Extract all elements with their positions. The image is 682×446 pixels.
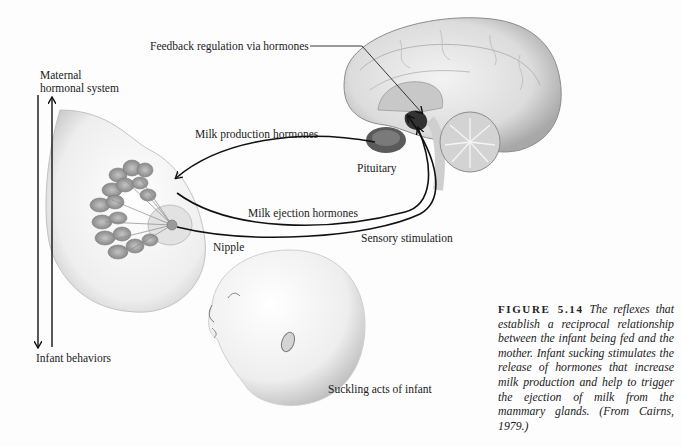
caption-text: The reflexes that establish a reciprocal… bbox=[498, 302, 674, 433]
suckling-label: Suckling acts of infant bbox=[328, 383, 432, 396]
milk-production-label: Milk production hormones bbox=[195, 128, 318, 141]
nipple-label: Nipple bbox=[213, 241, 244, 254]
infant-behaviors-label: Infant behaviors bbox=[36, 352, 111, 365]
sensory-stimulation-label: Sensory stimulation bbox=[361, 232, 453, 245]
milk-production-arrow bbox=[176, 136, 375, 178]
breast-illustration bbox=[46, 110, 206, 312]
maternal-label-line2: hormonal system bbox=[40, 82, 119, 95]
pituitary-label: Pituitary bbox=[357, 162, 397, 175]
figure-number: FIGURE 5.14 bbox=[498, 303, 584, 315]
figure-caption: FIGURE 5.14 The reflexes that establish … bbox=[498, 302, 674, 433]
milk-ejection-label: Milk ejection hormones bbox=[248, 207, 358, 220]
feedback-regulation-label: Feedback regulation via hormones bbox=[150, 40, 309, 53]
figure-page: Feedback regulation via hormones Materna… bbox=[0, 0, 682, 446]
maternal-label-line1: Maternal bbox=[40, 69, 82, 82]
